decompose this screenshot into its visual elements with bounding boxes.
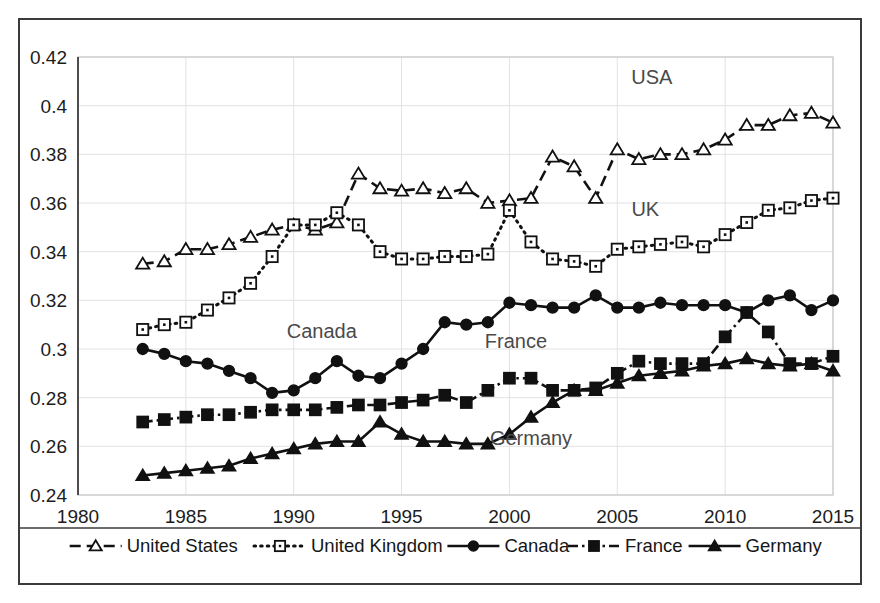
- data-point-marker: [267, 404, 278, 415]
- data-point-marker: [569, 302, 580, 313]
- series-germany: [136, 353, 839, 481]
- legend-item-canada[interactable]: Canada: [447, 535, 570, 556]
- data-point-marker: [697, 143, 710, 154]
- data-point-marker: [827, 351, 838, 362]
- line-chart: 0.240.260.280.30.320.340.360.380.40.42 1…: [0, 0, 880, 603]
- marker-center-dot: [745, 221, 748, 224]
- y-tick-label: 0.38: [30, 144, 67, 165]
- marker-center-dot: [832, 197, 835, 200]
- data-point-marker: [526, 300, 537, 311]
- y-tick-label: 0.36: [30, 193, 67, 214]
- legend-item-united-kingdom[interactable]: United Kingdom: [254, 535, 443, 556]
- data-point-marker: [396, 358, 407, 369]
- data-point-marker: [224, 366, 235, 377]
- data-point-marker: [547, 302, 558, 313]
- data-point-marker: [525, 373, 536, 384]
- data-point-marker: [310, 373, 321, 384]
- x-tick-label: 2015: [812, 506, 854, 527]
- data-point-marker: [137, 416, 148, 427]
- data-point-marker: [504, 373, 515, 384]
- x-tick-label: 1990: [273, 506, 315, 527]
- data-point-marker: [763, 326, 774, 337]
- data-point-marker: [720, 300, 731, 311]
- marker-center-dot: [314, 224, 317, 227]
- data-point-marker: [418, 344, 429, 355]
- marker-center-dot: [616, 248, 619, 251]
- data-point-marker: [418, 395, 429, 406]
- legend-label: Canada: [504, 535, 570, 556]
- data-point-marker: [547, 385, 558, 396]
- series-annotations: USAUKCanadaFranceGermany: [287, 66, 673, 449]
- data-point-marker: [439, 390, 450, 401]
- data-point-marker: [396, 397, 407, 408]
- data-point-marker: [267, 387, 278, 398]
- data-point-marker: [468, 541, 478, 551]
- data-point-marker: [245, 373, 256, 384]
- data-point-marker: [568, 160, 581, 171]
- annotation-uk: UK: [631, 198, 659, 220]
- data-point-marker: [439, 317, 450, 328]
- data-point-marker: [655, 297, 666, 308]
- marker-center-dot: [487, 253, 490, 256]
- marker-center-dot: [228, 297, 231, 300]
- data-point-marker: [223, 409, 234, 420]
- marker-center-dot: [465, 255, 468, 258]
- data-point-marker: [460, 182, 473, 193]
- marker-center-dot: [185, 321, 188, 324]
- legend-item-france[interactable]: France: [568, 535, 683, 556]
- data-point-marker: [720, 331, 731, 342]
- data-point-marker: [741, 307, 752, 318]
- annotation-usa: USA: [631, 66, 673, 88]
- data-point-marker: [612, 302, 623, 313]
- data-point-marker: [180, 412, 191, 423]
- marker-center-dot: [336, 211, 339, 214]
- plot-area: [78, 57, 833, 495]
- series-line: [143, 198, 833, 329]
- data-point-marker: [482, 317, 493, 328]
- marker-center-dot: [271, 255, 274, 258]
- data-point-marker: [310, 404, 321, 415]
- data-point-marker: [353, 399, 364, 410]
- marker-center-dot: [206, 309, 209, 312]
- chart-legend: United StatesUnited KingdomCanadaFranceG…: [20, 528, 860, 556]
- marker-center-dot: [789, 207, 792, 210]
- marker-center-dot: [379, 250, 382, 253]
- marker-center-dot: [551, 258, 554, 261]
- x-tick-label: 2010: [704, 506, 746, 527]
- data-point-marker: [828, 295, 839, 306]
- marker-center-dot: [292, 224, 295, 227]
- legend-item-united-states[interactable]: United States: [70, 535, 238, 556]
- data-point-marker: [611, 143, 624, 154]
- annotation-canada: Canada: [287, 320, 358, 342]
- data-point-marker: [331, 402, 342, 413]
- data-point-marker: [373, 416, 386, 427]
- data-point-marker: [589, 541, 599, 551]
- y-tick-label: 0.34: [30, 242, 67, 263]
- y-tick-label: 0.3: [41, 339, 67, 360]
- data-point-marker: [159, 414, 170, 425]
- data-point-marker: [395, 428, 408, 439]
- gridlines: [78, 57, 833, 495]
- legend-label: United Kingdom: [311, 535, 443, 556]
- marker-center-dot: [249, 282, 252, 285]
- marker-center-dot: [163, 323, 166, 326]
- y-tick-label: 0.32: [30, 290, 67, 311]
- data-point-marker: [202, 409, 213, 420]
- annotation-germany: Germany: [490, 427, 572, 449]
- data-point-marker: [417, 182, 430, 193]
- marker-center-dot: [422, 258, 425, 261]
- data-point-marker: [244, 231, 257, 242]
- data-point-marker: [546, 151, 559, 162]
- data-point-marker: [461, 319, 472, 330]
- y-axis-tick-labels: 0.240.260.280.30.320.340.360.380.40.42: [30, 47, 67, 506]
- marker-center-dot: [508, 209, 511, 212]
- data-point-marker: [202, 358, 213, 369]
- x-tick-label: 1985: [165, 506, 207, 527]
- data-point-marker: [374, 399, 385, 410]
- data-point-marker: [137, 344, 148, 355]
- marker-center-dot: [279, 545, 281, 547]
- legend-item-germany[interactable]: Germany: [689, 535, 823, 556]
- data-point-marker: [352, 168, 365, 179]
- marker-center-dot: [141, 328, 144, 331]
- data-point-marker: [633, 302, 644, 313]
